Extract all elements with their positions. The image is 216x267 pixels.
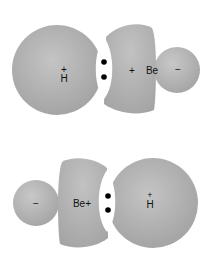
top-be-label: Be	[146, 65, 159, 76]
top-h-orbital	[12, 25, 102, 115]
top-electron-dot-2	[101, 74, 107, 80]
bottom-end-charge: −	[33, 198, 39, 209]
top-be-charge: +	[129, 65, 135, 76]
top-electron-dot-1	[101, 59, 107, 65]
bottom-electron-dot-1	[105, 193, 111, 199]
bottom-electron-dot-2	[105, 207, 111, 213]
top-diagram: + H + Be −	[12, 24, 200, 115]
bonding-diagram: + H + Be − − Be+ + H	[0, 0, 216, 267]
bottom-diagram: − Be+ + H	[13, 158, 198, 248]
bottom-h-label: H	[146, 199, 153, 210]
top-end-charge: −	[175, 64, 181, 75]
top-h-label: H	[60, 73, 67, 84]
bottom-be-label: Be+	[73, 198, 91, 209]
